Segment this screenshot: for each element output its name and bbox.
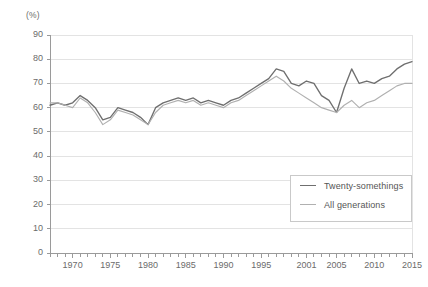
legend-label-twenty-somethings: Twenty-somethings — [324, 181, 403, 191]
y-tick-label: 30 — [17, 174, 43, 184]
y-tick-label: 80 — [17, 53, 43, 63]
legend-item-twenty-somethings: Twenty-somethings — [291, 176, 411, 195]
chart-plot-area — [0, 0, 428, 287]
legend-swatch-all-generations — [300, 204, 316, 205]
y-tick-label: 70 — [17, 77, 43, 87]
x-tick-label: 2010 — [354, 260, 394, 270]
y-tick-label: 0 — [17, 247, 43, 257]
legend-item-all-generations: All generations — [291, 195, 411, 214]
x-tick-label: 1975 — [90, 260, 130, 270]
x-tick-label: 1970 — [53, 260, 93, 270]
y-tick-label: 50 — [17, 126, 43, 136]
y-tick-label: 60 — [17, 102, 43, 112]
x-tick-label: 2015 — [392, 260, 428, 270]
x-tick-label: 2005 — [317, 260, 357, 270]
chart-legend: Twenty-somethings All generations — [290, 175, 412, 222]
y-tick-label: 10 — [17, 223, 43, 233]
x-tick-label: 1995 — [241, 260, 281, 270]
y-tick-label: 40 — [17, 150, 43, 160]
y-tick-label: 90 — [17, 29, 43, 39]
legend-label-all-generations: All generations — [324, 200, 385, 210]
legend-swatch-twenty-somethings — [300, 185, 316, 186]
x-tick-label: 1980 — [128, 260, 168, 270]
x-tick-label: 1985 — [166, 260, 206, 270]
x-tick-label: 1990 — [203, 260, 243, 270]
y-tick-label: 20 — [17, 199, 43, 209]
chart-container: (%) 0102030405060708090 1970197519801985… — [0, 0, 428, 287]
